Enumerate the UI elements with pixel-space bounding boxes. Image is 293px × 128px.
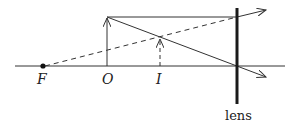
focal-point-dot xyxy=(40,63,45,68)
refracted-ray-upper xyxy=(237,10,266,17)
label-focal-point: F xyxy=(36,71,48,87)
label-lens: lens xyxy=(225,108,252,123)
virtual-ray-extension xyxy=(45,17,237,66)
label-object: O xyxy=(102,71,114,87)
ray-diagram: F O I lens xyxy=(0,0,293,128)
central-ray xyxy=(107,17,266,77)
label-image: I xyxy=(155,71,162,87)
